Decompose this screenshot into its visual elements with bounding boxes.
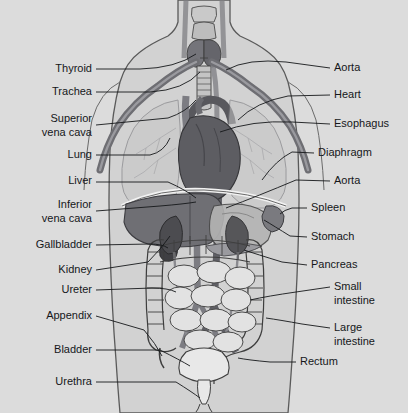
- label-line: Thyroid: [55, 62, 92, 74]
- label-appendix: Appendix: [46, 309, 92, 321]
- label-spleen: Spleen: [311, 201, 345, 213]
- label-ureter: Ureter: [61, 283, 92, 295]
- label-line: Rectum: [300, 355, 338, 367]
- label-line: Lung: [68, 148, 92, 160]
- larynx-icon: [191, 6, 216, 22]
- label-liver: Liver: [68, 174, 92, 186]
- label-trachea: Trachea: [52, 85, 93, 97]
- label-bladder: Bladder: [54, 343, 92, 355]
- label-gallbladder: Gallbladder: [36, 238, 93, 250]
- label-kidney: Kidney: [58, 263, 92, 275]
- label-lung: Lung: [68, 148, 92, 160]
- label-line: Spleen: [311, 201, 345, 213]
- label-line: Inferior: [58, 198, 93, 210]
- label-line: Stomach: [311, 230, 354, 242]
- label-line: Esophagus: [334, 117, 390, 129]
- label-line: vena cava: [42, 212, 93, 224]
- label-heart: Heart: [334, 88, 361, 100]
- label-line: Gallbladder: [36, 238, 93, 250]
- label-line: intestine: [334, 335, 375, 347]
- label-line: vena cava: [42, 126, 93, 138]
- label-diaphragm: Diaphragm: [318, 146, 372, 158]
- label-line: intestine: [334, 294, 375, 306]
- anatomy-diagram: ThyroidTracheaSuperiorvena cavaLungLiver…: [0, 0, 408, 413]
- label-line: Ureter: [61, 283, 92, 295]
- label-thyroid: Thyroid: [55, 62, 92, 74]
- label-esophagus: Esophagus: [334, 117, 390, 129]
- label-line: Heart: [334, 88, 361, 100]
- label-line: Superior: [50, 112, 92, 124]
- label-line: Liver: [68, 174, 92, 186]
- label-aorta-arch: Aorta: [334, 61, 361, 73]
- label-line: Appendix: [46, 309, 92, 321]
- label-urethra: Urethra: [55, 375, 93, 387]
- label-line: Small: [334, 280, 362, 292]
- label-line: Pancreas: [311, 258, 358, 270]
- label-line: Bladder: [54, 343, 92, 355]
- label-pancreas: Pancreas: [311, 258, 358, 270]
- label-line: Aorta: [334, 174, 361, 186]
- label-aorta-abdominal: Aorta: [334, 174, 361, 186]
- label-line: Trachea: [52, 85, 93, 97]
- label-stomach: Stomach: [311, 230, 354, 242]
- label-line: Aorta: [334, 61, 361, 73]
- label-line: Kidney: [58, 263, 92, 275]
- label-rectum: Rectum: [300, 355, 338, 367]
- label-line: Diaphragm: [318, 146, 372, 158]
- label-line: Urethra: [55, 375, 93, 387]
- label-line: Large: [334, 321, 362, 333]
